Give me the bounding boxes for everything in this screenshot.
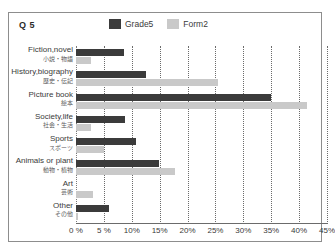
bar-grade5 [76,138,136,145]
x-tick-label: 15% [152,226,168,235]
gridline [327,46,328,224]
x-tick-label: 10% [124,226,140,235]
legend-label: Grade5 [125,19,153,29]
category-label-en: Other [53,202,73,210]
bar-form2 [76,213,78,220]
category-label-en: Sports [49,135,73,143]
category-label-jp: 芸術 [61,189,73,195]
bar-form2 [76,191,93,198]
category-label-en: Fiction,novel [28,46,73,54]
category-label: Picture book絵本 [29,91,73,107]
category-label: Society,life社会・生活 [35,113,73,129]
bar-grade5 [76,205,109,212]
category-label-en: Picture book [29,91,73,99]
bar-grade5 [76,94,271,101]
x-tick-label: 5 % [97,226,111,235]
bar-groups [76,46,327,224]
bar-grade5 [76,160,159,167]
legend-label: Form2 [183,19,208,29]
x-axis-tick-labels: 0 %5 %10%15%20%25%30%35%40%45% [76,226,327,240]
category-label: Sportsスポーツ [49,135,73,151]
bar-form2 [76,124,91,131]
chart-figure: Q 5 Grade5Form2 Fiction,novel小説・物語Histor… [8,12,322,242]
category-label: Fiction,novel小説・物語 [28,46,73,62]
x-tick-label: 0 % [69,226,83,235]
bar-group [76,205,327,221]
x-tick-label: 25% [207,226,223,235]
bar-group [76,94,327,110]
x-tick-label: 45% [319,226,335,235]
bar-grade5 [76,116,125,123]
category-label-en: Art [61,180,73,188]
category-label-jp: 動物・植物 [16,167,73,173]
legend-swatch-icon [109,19,121,29]
bar-group [76,49,327,65]
category-label-jp: その他 [53,211,73,217]
category-label: History,biography歴史・伝記 [11,68,73,84]
bar-form2 [76,57,91,64]
category-label-jp: 小説・物語 [28,56,73,62]
bar-grade5 [76,49,124,56]
bar-form2 [76,168,175,175]
category-label: Animals or plant動物・植物 [16,157,73,173]
bar-form2 [76,79,218,86]
x-tick-label: 35% [263,226,279,235]
bar-form2 [76,102,307,109]
chart-legend: Grade5Form2 [109,19,208,29]
bar-group [76,183,327,199]
category-label-jp: 絵本 [29,100,73,106]
question-label: Q 5 [19,20,35,30]
bar-grade5 [76,71,146,78]
legend-entry: Form2 [167,19,208,29]
bar-group [76,71,327,87]
x-tick-label: 40% [291,226,307,235]
category-label-jp: スポーツ [49,145,73,151]
category-label-en: History,biography [11,68,73,76]
category-label-en: Society,life [35,113,73,121]
category-axis-labels: Fiction,novel小説・物語History,biography歴史・伝記… [9,46,76,224]
category-label-jp: 社会・生活 [35,122,73,128]
category-label: Otherその他 [53,202,73,218]
legend-entry: Grade5 [109,19,153,29]
plot-area [76,46,327,224]
category-label: Art芸術 [61,180,73,196]
legend-swatch-icon [167,19,179,29]
category-label-en: Animals or plant [16,157,73,165]
bar-group [76,116,327,132]
bar-form2 [76,146,104,153]
x-tick-label: 30% [235,226,251,235]
category-label-jp: 歴史・伝記 [11,78,73,84]
bar-group [76,160,327,176]
x-tick-label: 20% [180,226,196,235]
bar-group [76,138,327,154]
axis-baseline [76,223,327,224]
